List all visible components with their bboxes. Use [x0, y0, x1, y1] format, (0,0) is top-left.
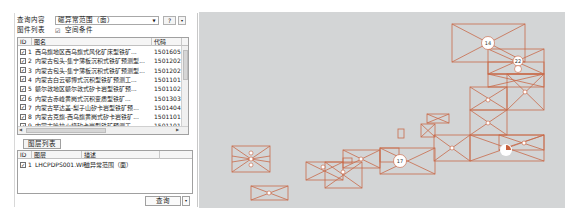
- row-checkbox[interactable]: ✓: [20, 162, 26, 168]
- row-code: 1501102: [154, 84, 181, 93]
- row-id: 5: [28, 84, 32, 93]
- cluster-label: 14: [485, 40, 491, 46]
- column-header-desc[interactable]: 描述: [82, 151, 160, 159]
- row-name: 内蒙古克旗-西乌旗黄岗式矽卡岩铁矿...: [35, 112, 151, 121]
- row-checkbox[interactable]: ✓: [20, 114, 26, 120]
- cluster-label: 22: [515, 58, 521, 64]
- help-button[interactable]: ?: [163, 16, 176, 25]
- layer-list-table: ID 图层 描述 ✓ 1 LHCPDPS001.WP 磁异常范围（面）: [17, 150, 193, 194]
- scrollbar-thumb[interactable]: [26, 128, 106, 133]
- row-desc: 磁异常范围（面）: [84, 160, 132, 169]
- tab-layer-list[interactable]: 图层列表: [23, 139, 61, 149]
- chevron-down-icon[interactable]: ▼: [151, 18, 157, 23]
- table-row[interactable]: ✓ 1 LHCPDPS001.WP 磁异常范围（面）: [18, 160, 192, 169]
- spatial-condition-checkbox[interactable]: ☑: [55, 27, 62, 34]
- row-name: 西乌旗地区西乌旗式风化矿床型铁矿...: [35, 47, 151, 56]
- column-header-name[interactable]: 图名: [32, 38, 152, 46]
- row-name: 内蒙古白云鄂博式沉积型铁矿预测工...: [35, 75, 151, 84]
- row-name: 内蒙古包头-集宁薄板沉积式铁矿预测型...: [35, 66, 151, 75]
- row-checkbox[interactable]: ✓: [20, 104, 26, 110]
- cluster-label: 17: [397, 158, 403, 164]
- scrollbar-thumb[interactable]: [183, 50, 188, 80]
- map-list-table: ID 图名 代码 ✓1西乌旗地区西乌旗式风化矿床型铁矿...1501605✓2内…: [17, 37, 189, 135]
- row-id: 1: [28, 47, 32, 56]
- table-row[interactable]: ✓7内蒙古罕达盖-梨子山矽卡岩型铁矿预...1501404: [18, 103, 188, 112]
- row-code: 1501404: [154, 103, 181, 112]
- scroll-right-icon[interactable]: ▶: [176, 127, 179, 133]
- query-content-select[interactable]: 磁异常范围（面） ▼: [55, 16, 159, 25]
- table-row[interactable]: ✓5额尔敦地区额尔敦式矽卡岩型铁矿预...1501102: [18, 84, 188, 93]
- query-dropdown-button[interactable]: ▾: [182, 196, 190, 206]
- row-checkbox[interactable]: ✓: [20, 95, 26, 101]
- map-list-label: 图件列表: [17, 26, 45, 35]
- row-checkbox[interactable]: ✓: [20, 58, 26, 64]
- query-content-label: 查询内容: [17, 16, 45, 25]
- row-id: 1: [28, 160, 32, 169]
- row-checkbox[interactable]: ✓: [20, 86, 26, 92]
- horizontal-scrollbar[interactable]: ◀ ▶: [18, 126, 188, 134]
- row-layer: LHCPDPS001.WP: [35, 160, 86, 169]
- query-content-value: 磁异常范围（面）: [58, 17, 114, 24]
- spatial-condition-label: 空间条件: [65, 26, 93, 35]
- options-dropdown-button[interactable]: ▾: [178, 16, 186, 25]
- column-header-layer[interactable]: 图层: [32, 151, 82, 159]
- row-code: 1501202: [154, 56, 181, 65]
- map-list-row: 图件列表 ☑ 空间条件: [17, 26, 197, 35]
- row-id: 2: [28, 56, 32, 65]
- table-row[interactable]: ✓8内蒙古克旗-西乌旗黄岗式矽卡岩铁矿...1501101: [18, 112, 188, 121]
- table-row[interactable]: ✓6内蒙古赤峰黄岗式沉积变质型铁矿...1501303: [18, 94, 188, 103]
- query-button[interactable]: 查询: [145, 196, 181, 206]
- pie-marker-slice: [506, 145, 511, 150]
- row-code: 1501605: [154, 47, 181, 56]
- row-code: 1501101: [154, 75, 181, 84]
- row-id: 6: [28, 94, 32, 103]
- column-header-id[interactable]: ID: [18, 151, 32, 159]
- table-row[interactable]: ✓1西乌旗地区西乌旗式风化矿床型铁矿...1501605: [18, 47, 188, 56]
- row-checkbox[interactable]: ✓: [20, 67, 26, 73]
- table-header: ID 图层 描述: [18, 151, 192, 159]
- scroll-left-icon[interactable]: ◀: [19, 127, 22, 133]
- row-name: 内蒙古包头-集宁薄板沉积式铁矿预测型...: [35, 56, 151, 65]
- query-panel: 查询内容 磁异常范围（面） ▼ ? ▾ 图件列表 ☑ 空间条件 ID 图名 代码…: [14, 13, 198, 207]
- table-header: ID 图名 代码: [18, 38, 188, 46]
- row-id: 8: [28, 112, 32, 121]
- row-code: 1501303: [154, 94, 181, 103]
- row-id: 7: [28, 103, 32, 112]
- table-row[interactable]: ✓4内蒙古白云鄂博式沉积型铁矿预测工...1501101: [18, 75, 188, 84]
- row-name: 额尔敦地区额尔敦式矽卡岩型铁矿预...: [35, 84, 151, 93]
- row-code: 1501202: [154, 66, 181, 75]
- row-name: 内蒙古赤峰黄岗式沉积变质型铁矿...: [35, 94, 151, 103]
- table-row[interactable]: ✓2内蒙古包头-集宁薄板沉积式铁矿预测型...1501202: [18, 56, 188, 65]
- row-checkbox[interactable]: ✓: [20, 76, 26, 82]
- row-id: 3: [28, 66, 32, 75]
- row-code: 1501101: [154, 112, 181, 121]
- row-id: 4: [28, 75, 32, 84]
- column-header-id[interactable]: ID: [18, 38, 32, 46]
- vertical-scrollbar[interactable]: [181, 46, 188, 126]
- table-row[interactable]: ✓3内蒙古包头-集宁薄板沉积式铁矿预测型...1501202: [18, 66, 188, 75]
- row-checkbox[interactable]: ✓: [20, 49, 26, 55]
- query-content-row: 查询内容 磁异常范围（面） ▼ ? ▾: [17, 16, 197, 25]
- column-header-code[interactable]: 代码: [152, 38, 182, 46]
- map-canvas[interactable]: 14 22 17: [199, 12, 565, 208]
- row-name: 内蒙古罕达盖-梨子山矽卡岩型铁矿预...: [35, 103, 151, 112]
- map-view[interactable]: 14 22 17: [199, 12, 565, 208]
